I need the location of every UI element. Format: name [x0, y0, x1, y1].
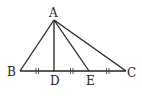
label-e: E — [86, 74, 95, 88]
segment-ae — [54, 20, 89, 71]
label-b: B — [7, 65, 16, 79]
label-a: A — [48, 6, 58, 20]
segment-ab — [20, 20, 54, 71]
label-d: D — [50, 74, 60, 88]
segment-ac — [54, 20, 126, 71]
triangle-diagram: A B D E C — [0, 0, 142, 96]
label-c: C — [127, 66, 136, 80]
